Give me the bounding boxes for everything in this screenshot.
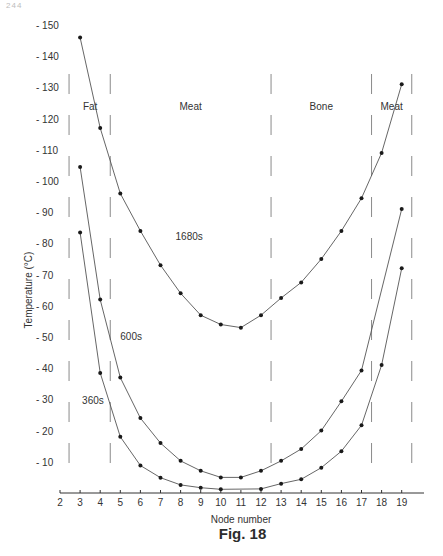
data-point-marker	[380, 151, 384, 155]
data-point-marker	[360, 368, 364, 372]
series-600s: 600s	[78, 165, 404, 479]
series-label: 600s	[120, 331, 142, 342]
data-point-marker	[259, 487, 263, 491]
y-tick-label: - 60	[36, 301, 54, 312]
y-tick-label: - 150	[36, 20, 59, 31]
y-tick-label: - 110	[36, 145, 58, 156]
data-point-marker	[360, 423, 364, 427]
y-tick-label: - 130	[36, 82, 59, 93]
y-tick-label: - 80	[36, 238, 54, 249]
x-tick-label: 19	[396, 497, 408, 508]
data-point-marker	[400, 207, 404, 211]
x-tick-label: 12	[255, 497, 267, 508]
data-point-marker	[138, 464, 142, 468]
x-tick-label: 15	[316, 497, 328, 508]
data-point-marker	[339, 229, 343, 233]
y-axis: - 10- 20- 30- 40- 50- 60- 70- 80- 90- 10…	[36, 20, 59, 468]
data-point-marker	[380, 363, 384, 367]
y-tick-label: - 40	[36, 363, 54, 374]
y-tick-label: - 70	[36, 270, 54, 281]
data-point-marker	[239, 475, 243, 479]
data-point-marker	[138, 416, 142, 420]
data-point-marker	[319, 257, 323, 261]
data-point-marker	[360, 196, 364, 200]
data-point-marker	[299, 280, 303, 284]
region-label: Bone	[310, 101, 334, 112]
data-point-marker	[159, 441, 163, 445]
region-label: Meat	[180, 101, 202, 112]
data-point-marker	[118, 191, 122, 195]
data-point-marker	[78, 165, 82, 169]
data-point-marker	[118, 435, 122, 439]
x-axis-label: Node number	[211, 514, 272, 525]
figure-caption: Fig. 18	[0, 525, 443, 542]
data-point-marker	[299, 447, 303, 451]
y-tick-label: - 30	[36, 394, 54, 405]
data-point-marker	[279, 482, 283, 486]
data-point-marker	[400, 82, 404, 86]
y-tick-label: - 90	[36, 207, 54, 218]
x-tick-label: 9	[198, 497, 204, 508]
data-point-marker	[400, 266, 404, 270]
x-tick-label: 17	[356, 497, 368, 508]
data-point-marker	[299, 477, 303, 481]
x-tick-label: 5	[118, 497, 124, 508]
x-tick-label: 13	[276, 497, 288, 508]
x-tick-label: 7	[158, 497, 164, 508]
data-point-marker	[98, 126, 102, 130]
x-tick-label: 2	[57, 497, 63, 508]
data-point-marker	[118, 376, 122, 380]
data-point-marker	[279, 296, 283, 300]
region-label: Meat	[381, 101, 403, 112]
data-point-marker	[339, 399, 343, 403]
data-point-marker	[138, 229, 142, 233]
data-point-marker	[219, 323, 223, 327]
y-tick-label: - 100	[36, 176, 59, 187]
series-360s: 360s	[78, 230, 404, 491]
y-tick-label: - 120	[36, 114, 59, 125]
data-point-marker	[259, 313, 263, 317]
data-point-marker	[339, 449, 343, 453]
data-point-marker	[259, 469, 263, 473]
data-point-marker	[239, 326, 243, 330]
series-line	[80, 167, 402, 477]
y-tick-label: - 10	[36, 457, 54, 468]
data-point-marker	[179, 291, 183, 295]
data-series: 1680s600s360s	[78, 35, 404, 491]
series-label: 1680s	[176, 231, 203, 242]
region-boundaries	[69, 74, 412, 472]
data-point-marker	[78, 35, 82, 39]
x-tick-label: 14	[296, 497, 308, 508]
data-point-marker	[199, 469, 203, 473]
series-1680s: 1680s	[78, 35, 404, 329]
data-point-marker	[98, 371, 102, 375]
x-tick-label: 10	[215, 497, 227, 508]
x-tick-label: 3	[77, 497, 83, 508]
series-line	[80, 38, 402, 328]
data-point-marker	[98, 298, 102, 302]
series-line	[80, 233, 402, 490]
y-tick-label: - 50	[36, 332, 54, 343]
data-point-marker	[78, 230, 82, 234]
data-point-marker	[319, 429, 323, 433]
x-tick-label: 4	[97, 497, 103, 508]
y-axis-label: Temperature (°C)	[23, 252, 34, 329]
chart-canvas: FatMeatBoneMeat - 10- 20- 30- 40- 50- 60…	[0, 0, 443, 556]
x-tick-label: 16	[336, 497, 348, 508]
x-tick-label: 11	[236, 497, 247, 508]
data-point-marker	[199, 486, 203, 490]
data-point-marker	[159, 476, 163, 480]
data-point-marker	[279, 459, 283, 463]
x-tick-label: 18	[376, 497, 388, 508]
x-tick-label: 8	[178, 497, 184, 508]
series-label: 360s	[82, 395, 104, 406]
y-tick-label: - 140	[36, 51, 59, 62]
data-point-marker	[179, 483, 183, 487]
temperature-node-chart: FatMeatBoneMeat - 10- 20- 30- 40- 50- 60…	[0, 0, 443, 556]
data-point-marker	[159, 263, 163, 267]
y-tick-label: - 20	[36, 426, 54, 437]
x-axis: 2345678910111213141516171819	[57, 490, 424, 508]
data-point-marker	[179, 459, 183, 463]
data-point-marker	[319, 466, 323, 470]
x-tick-label: 6	[138, 497, 144, 508]
